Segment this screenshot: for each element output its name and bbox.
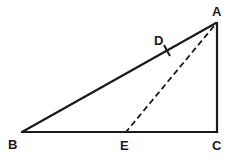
label-d: D: [154, 33, 163, 48]
triangle-diagram: A B C D E: [0, 0, 231, 158]
label-c: C: [212, 138, 222, 153]
label-b: B: [8, 137, 17, 152]
label-e: E: [120, 138, 129, 153]
label-a: A: [212, 4, 222, 19]
side-ab: [22, 23, 216, 132]
dashed-segment-ae: [126, 26, 214, 132]
